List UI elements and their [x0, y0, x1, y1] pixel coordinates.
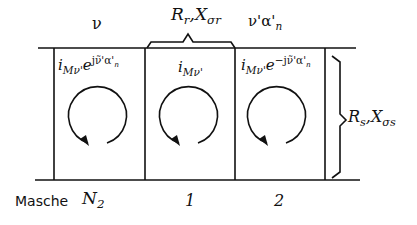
stator-X-sub: σs — [382, 116, 395, 129]
stator-R: R — [348, 107, 360, 126]
current-sub: Mν' — [183, 66, 203, 78]
phase-label-sub: n — [276, 20, 283, 32]
row-label: Masche — [15, 194, 68, 208]
rotor-X-sub: σr — [207, 13, 221, 27]
mesh-arrow-1 — [160, 87, 218, 143]
mesh-current-1: iMν' — [178, 60, 203, 78]
mesh-label-1: 1 — [185, 193, 195, 209]
mesh-arrow-n2 — [69, 87, 127, 143]
phase-label-text: ν'α' — [248, 12, 276, 30]
mesh-current-2: iMν'e−jν̃'α'n — [241, 55, 311, 76]
phase-label: ν'α'n — [248, 14, 282, 32]
mesh-label-2: 2 — [274, 193, 284, 209]
stator-X: X — [371, 107, 382, 126]
current-exponent-sub: n — [114, 60, 119, 69]
mesh-label-n2: N2 — [82, 190, 104, 211]
current-factor: e — [83, 56, 92, 74]
current-exponent: −jν̃'α' — [275, 54, 306, 66]
current-sub: Mν' — [246, 64, 266, 76]
right-brace — [332, 56, 346, 178]
current-exponent: jν̃'α' — [92, 54, 115, 66]
mesh-arrow-2 — [248, 87, 306, 143]
nu-label: ν — [92, 16, 102, 32]
mesh-label-base: N — [82, 188, 97, 208]
rotor-R: R — [171, 4, 184, 24]
mesh-current-n2: iMν'ejν̃'α'n — [58, 55, 119, 76]
stator-impedance-label: Rs,Xσs — [348, 109, 396, 128]
top-brace — [147, 34, 235, 48]
rotor-X: X — [195, 4, 207, 24]
current-sub: Mν' — [63, 64, 83, 76]
current-factor: e — [266, 56, 275, 74]
mesh-label-sub: 2 — [97, 197, 105, 211]
current-exponent-sub: n — [306, 60, 311, 69]
mesh-diagram: ν Rr,Xσr ν'α'n iMν'ejν̃'α'n iMν' iMν'e−j… — [0, 0, 417, 225]
rotor-impedance-label: Rr,Xσr — [171, 6, 221, 27]
